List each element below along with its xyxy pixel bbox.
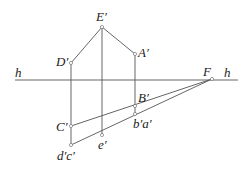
- line-dc-F: [71, 79, 212, 145]
- label-F: F: [202, 64, 212, 79]
- label-E: E′: [95, 9, 107, 24]
- label-h-right: h: [224, 65, 231, 80]
- edge-D-E: [71, 27, 102, 63]
- label-A: A′: [137, 45, 149, 60]
- point-A: [133, 52, 136, 55]
- perspective-diagram: h h F E′ D′ A′ C′ d′c′ e′ B′ b′a′: [0, 0, 246, 174]
- point-dc: [69, 143, 72, 146]
- label-D: D′: [55, 54, 68, 69]
- point-C: [69, 124, 72, 127]
- point-B: [133, 104, 136, 107]
- label-ba: b′a′: [133, 116, 152, 131]
- label-h-left: h: [15, 65, 22, 80]
- label-e: e′: [98, 137, 107, 152]
- label-B: B′: [138, 90, 149, 105]
- point-D: [69, 61, 72, 64]
- label-dc: d′c′: [57, 148, 75, 163]
- label-C: C′: [56, 119, 68, 134]
- edge-E-A: [102, 27, 135, 54]
- point-E: [100, 25, 103, 28]
